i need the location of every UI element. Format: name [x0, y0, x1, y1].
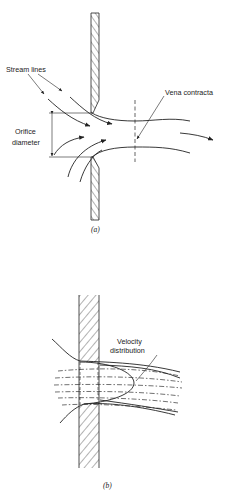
stream-lines-label: Stream lines — [6, 65, 46, 74]
velocity-label-line2: distribution — [110, 346, 145, 355]
vena-contracta-pointer — [137, 96, 164, 139]
stream-line — [48, 99, 90, 126]
stream-line — [55, 391, 180, 396]
caption-b: (b) — [103, 481, 112, 490]
orifice-diagram-b: Velocity distribution (b) — [0, 250, 237, 499]
velocity-label-line1: Velocity — [117, 337, 142, 346]
vena-contracta-label: Vena contracta — [165, 88, 213, 97]
jet-upper-boundary — [92, 113, 190, 121]
orifice-label-line2: diameter — [12, 138, 41, 147]
orifice-plate-lower — [91, 157, 99, 220]
lower-boundary-streamline — [60, 403, 175, 423]
caption-a: (a) — [91, 225, 100, 234]
stream-line — [54, 384, 182, 388]
stream-line — [55, 377, 182, 382]
stream-line — [54, 137, 84, 155]
stream-line — [68, 140, 106, 177]
orifice-plate-thick — [79, 295, 99, 468]
exit-flow-arrow — [180, 133, 213, 140]
orifice-label-line1: Orifice — [15, 127, 36, 136]
stream-lines-pointer — [28, 74, 44, 94]
stream-lines-pointer — [38, 74, 62, 91]
figure-b-velocity-distribution: Velocity distribution (b) — [0, 250, 237, 499]
figure-a-orifice-flow: Stream lines Vena contracta Orifice diam… — [0, 0, 237, 250]
orifice-diagram-a: Stream lines Vena contracta Orifice diam… — [0, 0, 237, 250]
orifice-plate-upper — [91, 13, 99, 113]
jet-lower-boundary — [92, 147, 190, 157]
